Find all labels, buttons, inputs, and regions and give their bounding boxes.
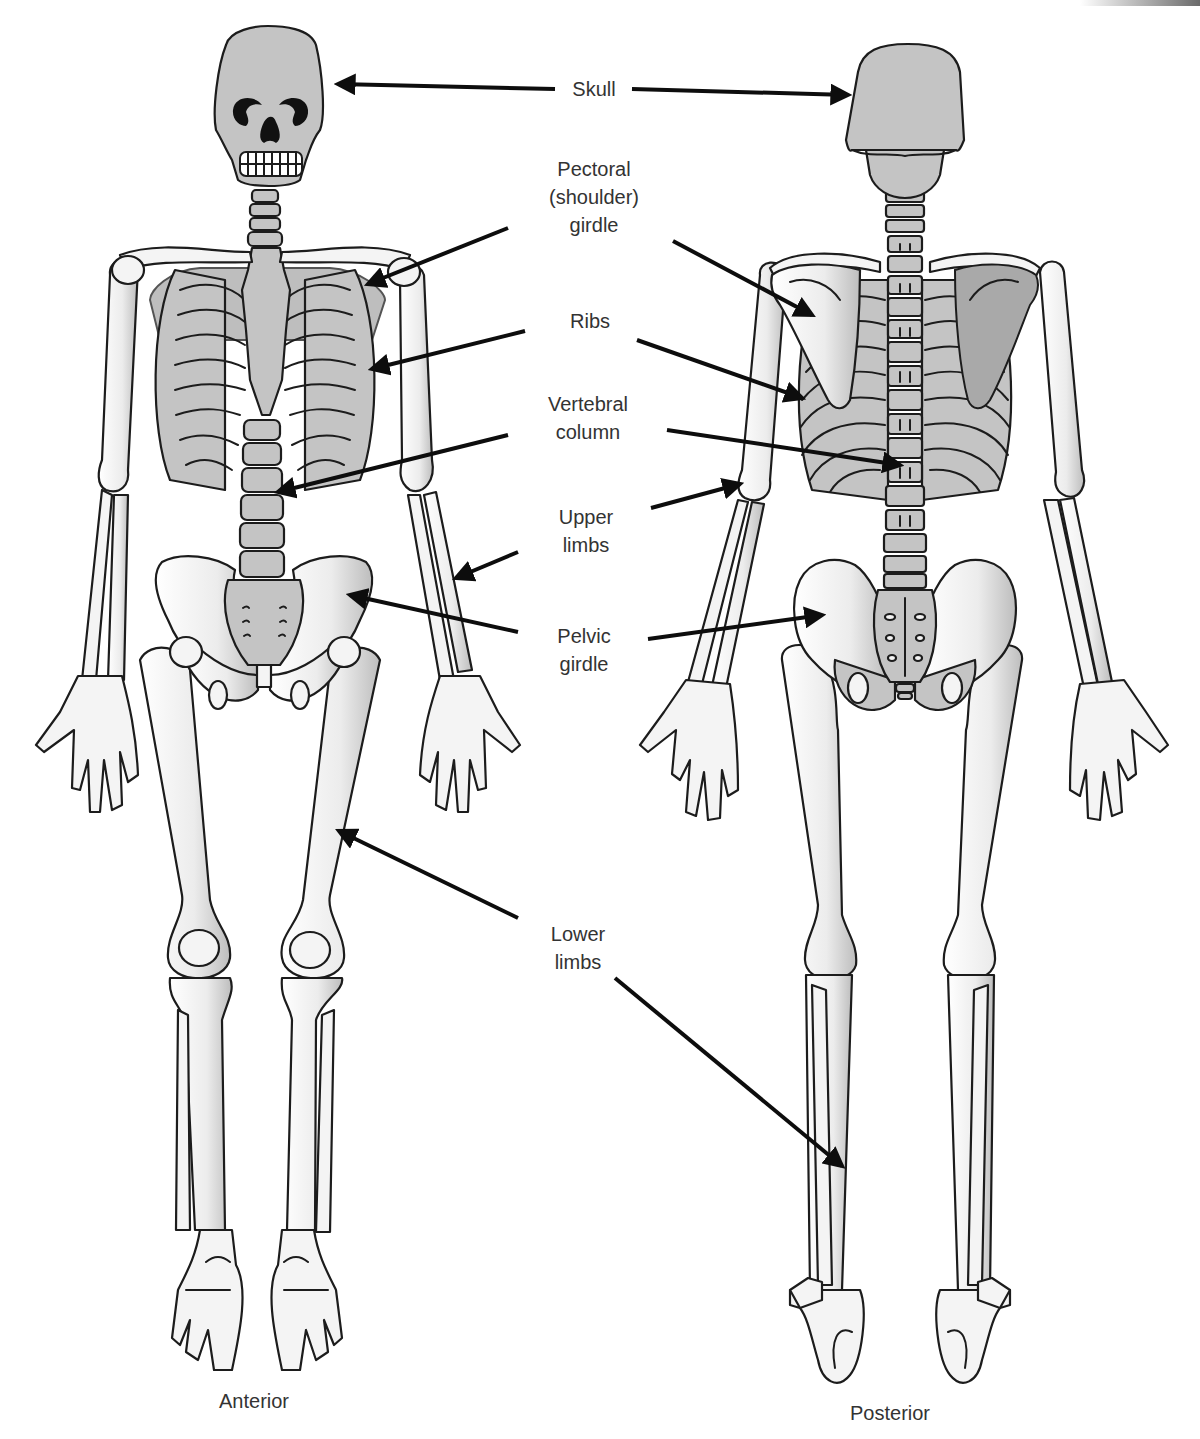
label-pectoral-girdle: Pectoral (shoulder) girdle — [543, 155, 645, 239]
anterior-vertebral-column — [240, 420, 284, 577]
label-line: Ribs — [570, 307, 610, 335]
label-vertebral-column: Vertebral column — [542, 390, 634, 446]
label-line: Pelvic — [557, 622, 610, 650]
arrow-skull-anterior — [338, 84, 555, 89]
posterior-skeleton — [640, 44, 1168, 1383]
label-line: limbs — [551, 948, 605, 976]
label-ribs: Ribs — [564, 307, 616, 335]
anterior-cervical-spine — [248, 190, 282, 246]
label-upper-limbs: Upper limbs — [553, 503, 619, 559]
skeleton-diagram: Skull Pectoral (shoulder) girdle Ribs Ve… — [0, 0, 1200, 1439]
label-line: girdle — [557, 650, 610, 678]
anterior-skull — [215, 26, 323, 186]
posterior-lower-limbs — [782, 645, 1022, 1383]
posterior-vertebral-column — [884, 160, 926, 588]
label-line: (shoulder) — [549, 183, 639, 211]
label-line: Upper — [559, 503, 613, 531]
label-line: Pectoral — [549, 155, 639, 183]
label-skull: Skull — [566, 75, 621, 103]
caption-anterior: Anterior — [219, 1390, 289, 1413]
arrow-upper-limbs-anterior — [456, 552, 518, 578]
label-line: girdle — [549, 211, 639, 239]
arrow-lower-limbs-anterior — [339, 831, 518, 918]
label-line: Lower — [551, 920, 605, 948]
label-line: limbs — [559, 531, 613, 559]
label-line: Skull — [572, 75, 615, 103]
caption-posterior: Posterior — [850, 1402, 930, 1425]
label-line: Vertebral — [548, 390, 628, 418]
arrow-skull-posterior — [632, 89, 848, 95]
arrow-upper-limbs-posterior — [651, 484, 740, 508]
arrow-ribs-anterior — [372, 331, 525, 369]
anterior-skeleton — [36, 26, 520, 1370]
posterior-skull — [846, 44, 964, 198]
label-line: column — [548, 418, 628, 446]
anterior-lower-limbs — [140, 648, 380, 1370]
label-lower-limbs: Lower limbs — [545, 920, 611, 976]
label-pelvic-girdle: Pelvic girdle — [551, 622, 616, 678]
